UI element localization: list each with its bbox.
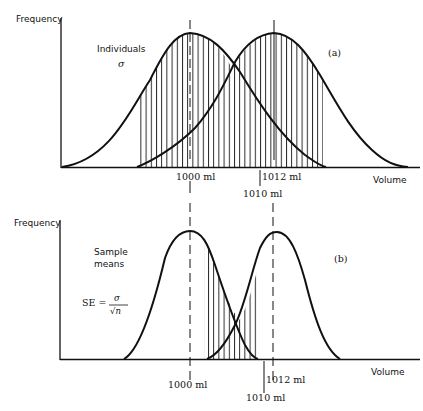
panel-a-y-axis-label: Frequency xyxy=(16,15,63,24)
panel-b-se-denominator: √n xyxy=(110,307,121,316)
panel-b-se-numerator: σ xyxy=(114,294,120,303)
panel-b-hatch xyxy=(124,231,340,359)
panel-a-x-axis-label: Volume xyxy=(373,176,406,185)
figure-canvas xyxy=(0,0,423,411)
panel-a-mark-1012: 1012 ml xyxy=(262,172,301,182)
panel-a-group-label: Individuals xyxy=(97,45,146,54)
panel-b-mark-1000: 1000 ml xyxy=(168,380,207,390)
panel-a-tag: (a) xyxy=(328,48,341,58)
panel-b-tag: (b) xyxy=(334,254,348,264)
panel-b-group-label-line2: means xyxy=(94,260,124,269)
panel-b-x-axis-label: Volume xyxy=(371,368,404,377)
panel-a-mark-1000: 1000 ml xyxy=(176,172,215,182)
panel-b-mark-1012: 1012 ml xyxy=(266,375,305,385)
panel-a-mark-1010: 1010 ml xyxy=(243,189,282,199)
panel-b-group-label-line1: Sample xyxy=(94,248,128,257)
panel-b-se-label: SE = xyxy=(82,298,106,308)
panel-b-y-axis-label: Frequency xyxy=(14,219,61,228)
panel-a-sigma-label: σ xyxy=(118,59,125,69)
panel-b-mark-1010: 1010 ml xyxy=(246,393,285,403)
